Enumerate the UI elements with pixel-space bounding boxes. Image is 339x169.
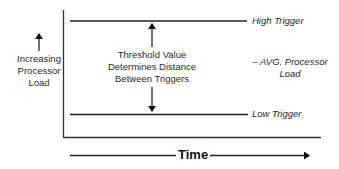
y-axis-label-line1: Increasing (10, 53, 68, 65)
y-axis-label-line2: Processor (10, 65, 68, 77)
x-axis-time-label: Time (176, 148, 210, 162)
threshold-label-line3: Between Triggers (102, 73, 202, 85)
threshold-label-line2: Determines Distance (102, 61, 202, 73)
y-axis-label: Increasing Processor Load (10, 53, 68, 89)
low-trigger-label: Low Trigger (252, 108, 301, 120)
y-axis-label-line3: Load (10, 77, 68, 89)
high-trigger-label: High Trigger (252, 15, 304, 27)
threshold-label-line1: Threshold Value (102, 49, 202, 61)
threshold-label: Threshold Value Determines Distance Betw… (102, 49, 202, 85)
avg-label-line1: – AVG. Processor (250, 56, 330, 68)
avg-processor-load-label: – AVG. Processor Load (250, 56, 330, 80)
avg-label-line2: Load (250, 68, 330, 80)
